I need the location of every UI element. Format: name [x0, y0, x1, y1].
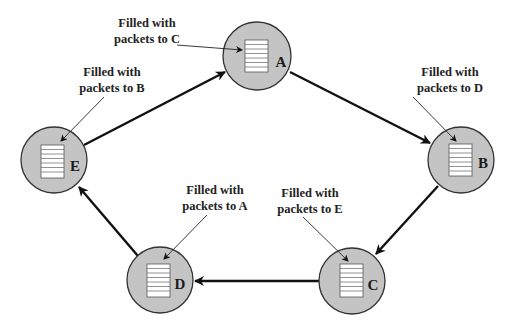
- buffer-icon: [147, 264, 170, 297]
- buffer-icon: [449, 144, 472, 176]
- node-label-c: C: [368, 277, 379, 294]
- buffer-icon: [245, 40, 268, 72]
- buffer-icon: [340, 264, 363, 297]
- annotation-line: Filled with: [277, 186, 342, 202]
- annotation-node-d: Filled with packets to A: [182, 183, 247, 214]
- annotation-node-e: Filled with packets to B: [79, 65, 144, 96]
- buffer-icon: [41, 145, 64, 178]
- annotation-node-c: Filled with packets to E: [277, 186, 342, 217]
- edge-a-to-b: [290, 72, 430, 143]
- node-label-e: E: [70, 158, 80, 175]
- edge-d-to-e: [79, 187, 138, 256]
- ring-edges: [79, 72, 438, 281]
- annotation-line: packets to B: [79, 81, 144, 97]
- pointer-e: [61, 97, 104, 141]
- pointer-b: [413, 97, 456, 141]
- annotation-node-b: Filled with packets to D: [417, 65, 483, 96]
- ring-network-diagram: A B C D E Filled with packets to C Fille…: [0, 0, 515, 326]
- node-label-a: A: [276, 54, 287, 71]
- edge-b-to-c: [376, 186, 438, 254]
- annotation-line: Filled with: [417, 65, 483, 81]
- annotation-line: Filled with: [79, 65, 144, 81]
- annotation-node-a: Filled with packets to C: [114, 16, 180, 47]
- annotation-line: packets to E: [277, 202, 342, 218]
- annotation-line: Filled with: [182, 183, 247, 199]
- annotation-line: packets to C: [114, 32, 180, 48]
- node-label-b: B: [478, 155, 488, 172]
- pointer-c: [303, 217, 348, 261]
- pointer-d: [164, 215, 207, 259]
- annotation-line: packets to A: [182, 199, 247, 215]
- node-label-d: D: [175, 276, 186, 293]
- annotation-line: packets to D: [417, 81, 483, 97]
- annotation-line: Filled with: [114, 16, 180, 32]
